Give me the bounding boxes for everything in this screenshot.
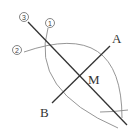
arc-from-b (24, 43, 122, 118)
step-marker-1-label: 1 (48, 20, 52, 27)
step-marker-3: 3 (20, 13, 29, 22)
step-marker-2-label: 2 (15, 47, 19, 54)
segment-ab (52, 46, 110, 103)
label-m: M (88, 72, 100, 87)
construction-svg: A B M 3 1 2 (0, 0, 140, 135)
step-marker-1: 1 (46, 19, 55, 28)
step-marker-2: 2 (13, 46, 22, 55)
label-a: A (112, 31, 122, 46)
diagram-canvas: A B M 3 1 2 (0, 0, 140, 135)
label-b: B (40, 105, 49, 120)
step-marker-3-label: 3 (22, 14, 26, 21)
